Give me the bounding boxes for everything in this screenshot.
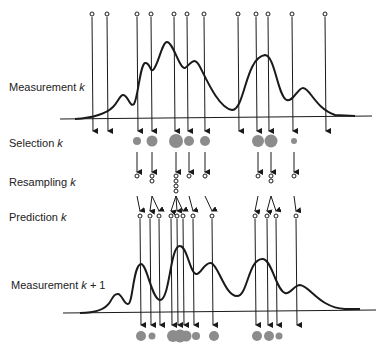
- top-axis: [60, 116, 372, 119]
- weighted-particle-icon: [276, 333, 283, 340]
- arrow-icon: [150, 219, 151, 325]
- resampled-particle-icon: [174, 179, 178, 183]
- particle-icon: [323, 12, 327, 16]
- arrow-icon: [174, 17, 175, 131]
- arrow-icon: [271, 196, 276, 211]
- particle-icon: [254, 12, 258, 16]
- weighted-particle-icon: [192, 332, 200, 340]
- label-measurement-k: Measurement k: [9, 81, 85, 93]
- arrow-icon: [189, 196, 193, 211]
- predicted-particle-icon: [169, 214, 173, 218]
- arrow-icon: [256, 17, 257, 131]
- particle-icon: [266, 12, 270, 16]
- weighted-particle-icon: [181, 331, 192, 342]
- particle-icon: [149, 12, 153, 16]
- weighted-particle-icon: [291, 138, 297, 144]
- weighted-particle-icon: [200, 136, 210, 146]
- arrow-icon: [296, 219, 297, 325]
- arrow-icon: [107, 17, 108, 131]
- arrow-icon: [255, 219, 256, 325]
- bottom-axis: [63, 310, 376, 313]
- arrow-icon: [187, 17, 188, 131]
- arrow-icon: [267, 196, 271, 211]
- arrow-icon: [204, 17, 205, 131]
- weighted-particle-icon: [147, 136, 158, 147]
- particle-icon: [90, 12, 94, 16]
- label-prediction-k: Prediction k: [9, 211, 66, 223]
- predicted-particle-icon: [191, 214, 195, 218]
- arrow-icon: [159, 219, 160, 325]
- predicted-particle-icon: [175, 214, 179, 218]
- resampled-particle-icon: [174, 184, 178, 188]
- predicted-particle-icon: [148, 214, 152, 218]
- arrow-icon: [267, 219, 268, 325]
- predicted-particle-icon: [181, 214, 185, 218]
- weighted-particle-icon: [133, 137, 141, 145]
- resampled-particle-icon: [292, 174, 296, 178]
- weighted-particle-icon: [184, 136, 194, 146]
- arrow-icon: [92, 17, 93, 131]
- arrow-icon: [150, 196, 152, 211]
- label-measurement-k1: Measurement k + 1: [11, 279, 105, 291]
- arrow-icon: [276, 219, 277, 325]
- arrow-icon: [177, 219, 178, 325]
- arrow-icon: [294, 196, 296, 211]
- resampled-particle-icon: [187, 174, 191, 178]
- predicted-particle-icon: [253, 214, 257, 218]
- arrow-icon: [183, 219, 184, 325]
- arrow-icon: [325, 17, 326, 131]
- resampled-particle-icon: [150, 179, 154, 183]
- arrow-icon: [212, 219, 213, 325]
- resampled-particle-icon: [135, 174, 139, 178]
- arrow-icon: [255, 196, 258, 211]
- predicted-particle-icon: [274, 214, 278, 218]
- resampled-particle-icon: [256, 174, 260, 178]
- resampled-particle-icon: [174, 174, 178, 178]
- label-resampling-k: Resampling k: [9, 176, 76, 188]
- particle-icon: [185, 12, 189, 16]
- arrow-icon: [238, 17, 239, 131]
- predicted-particle-icon: [138, 214, 142, 218]
- weighted-particle-icon: [265, 135, 278, 148]
- weighted-particle-icon: [264, 331, 274, 341]
- weighted-particle-icon: [209, 331, 219, 341]
- weighted-particle-icon: [149, 333, 156, 340]
- weighted-particle-icon: [252, 331, 262, 341]
- particle-icon: [202, 12, 206, 16]
- resampled-particle-icon: [203, 174, 207, 178]
- resampled-particle-icon: [150, 174, 154, 178]
- measurement-k-curve: [75, 42, 355, 119]
- arrow-icon: [137, 196, 140, 211]
- predicted-particle-icon: [210, 214, 214, 218]
- arrow-icon: [137, 17, 138, 131]
- arrow-icon: [152, 196, 159, 211]
- weighted-particle-icon: [136, 331, 146, 341]
- predicted-particle-icon: [294, 214, 298, 218]
- arrow-icon: [292, 17, 293, 131]
- particle-icon: [236, 12, 240, 16]
- arrow-icon: [205, 196, 212, 211]
- arrow-icon: [268, 17, 269, 131]
- predicted-particle-icon: [157, 214, 161, 218]
- label-selection-k: Selection k: [9, 137, 63, 149]
- measurement-k1-curve: [80, 246, 360, 313]
- particle-icon: [105, 12, 109, 16]
- resampled-particle-icon: [269, 174, 273, 178]
- resampled-particle-icon: [269, 179, 273, 183]
- particle-icon: [172, 12, 176, 16]
- arrow-icon: [140, 219, 141, 325]
- weighted-particle-icon: [169, 134, 183, 148]
- arrow-icon: [151, 17, 152, 131]
- particle-icon: [135, 12, 139, 16]
- resampled-particle-icon: [174, 189, 178, 193]
- arrow-icon: [171, 196, 176, 211]
- weighted-particle-icon: [252, 135, 264, 147]
- arrow-icon: [171, 219, 172, 325]
- particle-icon: [290, 12, 294, 16]
- predicted-particle-icon: [265, 214, 269, 218]
